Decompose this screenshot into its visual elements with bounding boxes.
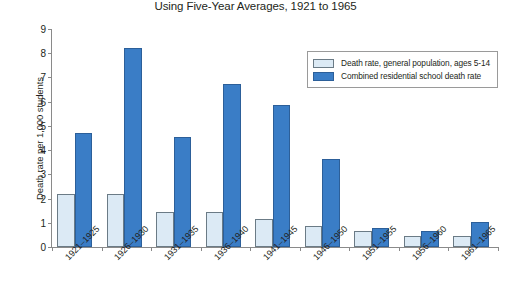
- x-axis-tick: [250, 247, 251, 251]
- y-axis-tick-label: 5: [40, 120, 46, 131]
- x-axis-tick: [102, 247, 103, 251]
- bar-general-population[interactable]: [107, 194, 125, 247]
- bar-group: [52, 29, 102, 247]
- x-axis-tick: [349, 247, 350, 251]
- y-axis-tick-label: 8: [40, 48, 46, 59]
- x-axis-tick: [498, 247, 499, 251]
- y-axis-tick-label: 0: [40, 242, 46, 253]
- y-axis-tick-label: 1: [40, 217, 46, 228]
- x-axis-tick: [201, 247, 202, 251]
- x-axis-tick: [399, 247, 400, 251]
- bar-group: [250, 29, 300, 247]
- x-axis-tick: [448, 247, 449, 251]
- x-axis-tick: [52, 247, 53, 251]
- y-axis-tick-label: 2: [40, 193, 46, 204]
- y-axis-tick-label: 3: [40, 169, 46, 180]
- legend-item[interactable]: Death rate, general population, ages 5-1…: [313, 57, 490, 69]
- legend-item[interactable]: Combined residential school death rate: [313, 70, 490, 82]
- legend-swatch-icon: [313, 72, 334, 81]
- bar-residential-school[interactable]: [124, 48, 142, 247]
- bar-general-population[interactable]: [206, 212, 224, 247]
- y-axis-tick-label: 6: [40, 96, 46, 107]
- bar-general-population[interactable]: [305, 226, 323, 247]
- y-axis-tick-label: 9: [40, 24, 46, 35]
- y-axis-label: Death rate per 1,000 students: [34, 39, 45, 239]
- bar-general-population[interactable]: [255, 219, 273, 247]
- chart-legend: Death rate, general population, ages 5-1…: [307, 51, 498, 88]
- y-axis-tick-label: 7: [40, 72, 46, 83]
- x-axis-tick: [151, 247, 152, 251]
- x-axis-tick: [300, 247, 301, 251]
- page-title: Using Five-Year Averages, 1921 to 1965: [0, 0, 511, 12]
- legend-label: Combined residential school death rate: [341, 71, 481, 81]
- bar-residential-school[interactable]: [273, 105, 291, 247]
- bar-group: [201, 29, 251, 247]
- x-axis-tick-labels: 1921–19251926–19301931–19351936–19401941…: [51, 255, 497, 299]
- y-axis-tick-label: 4: [40, 145, 46, 156]
- legend-swatch-icon: [313, 59, 334, 68]
- bar-group: [102, 29, 152, 247]
- bar-general-population[interactable]: [57, 194, 75, 247]
- bar-general-population[interactable]: [156, 212, 174, 247]
- bar-residential-school[interactable]: [223, 84, 241, 248]
- legend-label: Death rate, general population, ages 5-1…: [341, 58, 490, 68]
- bar-group: [151, 29, 201, 247]
